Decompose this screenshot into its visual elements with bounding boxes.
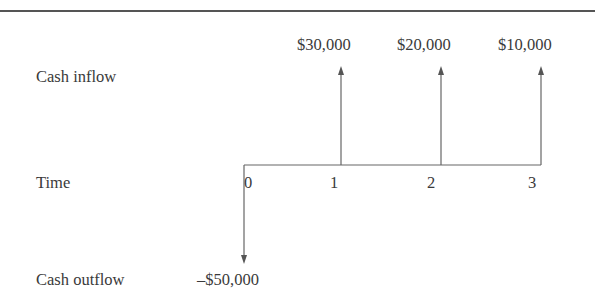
arrowhead-down-icon (241, 255, 247, 264)
arrowhead-up-icon (438, 66, 444, 75)
arrowhead-up-icon (338, 66, 344, 75)
cash-flow-timeline (0, 0, 595, 306)
arrowhead-up-icon (538, 66, 544, 75)
